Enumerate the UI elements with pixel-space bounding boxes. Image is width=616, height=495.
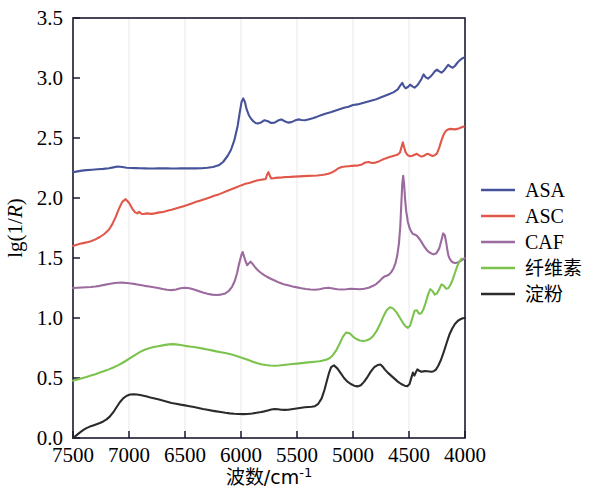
y-axis-ticks (73, 18, 80, 438)
x-tick-label: 6000 (220, 443, 262, 467)
chart-legend: ASAASCCAF纤维素淀粉 (481, 179, 582, 305)
x-tick-label: 4000 (444, 443, 486, 467)
y-tick-label: 2.5 (37, 126, 63, 150)
chart-canvas: 75007000650060005500500045004000 0.00.51… (0, 0, 616, 495)
x-tick-label: 7000 (108, 443, 150, 467)
y-tick-label: 3.5 (37, 6, 63, 30)
x-axis-title: 波数/cm-1 (226, 465, 312, 488)
y-tick-label: 0.5 (37, 366, 63, 390)
series-line-淀粉 (73, 318, 465, 438)
x-axis-tick-labels: 75007000650060005500500045004000 (52, 443, 486, 467)
spectra-figure: 75007000650060005500500045004000 0.00.51… (0, 0, 616, 495)
y-tick-label: 1.0 (37, 306, 63, 330)
y-tick-label: 3.0 (37, 66, 63, 90)
x-tick-label: 6500 (164, 443, 206, 467)
legend-label-淀粉: 淀粉 (525, 283, 563, 305)
x-tick-label: 5500 (276, 443, 318, 467)
plot-frame (73, 18, 465, 438)
series-line-CAF (73, 176, 465, 295)
y-tick-label: 1.5 (37, 246, 63, 270)
legend-label-CAF: CAF (525, 231, 564, 253)
series-line-ASA (73, 58, 464, 173)
legend-label-ASC: ASC (525, 205, 564, 227)
x-axis-ticks (73, 431, 465, 438)
legend-label-纤维素: 纤维素 (525, 257, 582, 279)
x-tick-label: 4500 (388, 443, 430, 467)
y-axis-tick-labels: 0.00.51.01.52.02.53.03.5 (37, 6, 63, 450)
y-axis-title: lg(1/R) (3, 198, 27, 258)
gridlines (129, 18, 409, 438)
y-tick-label: 0.0 (37, 426, 63, 450)
y-tick-label: 2.0 (37, 186, 63, 210)
legend-label-ASA: ASA (525, 179, 566, 201)
data-series-group (73, 58, 465, 438)
x-tick-label: 5000 (332, 443, 374, 467)
